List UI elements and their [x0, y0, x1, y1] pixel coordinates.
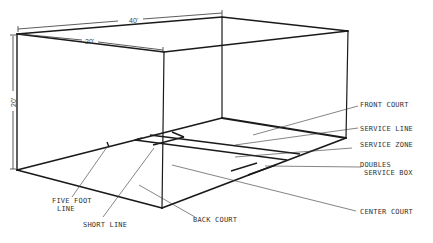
label-front-court: FRONT COURT	[360, 101, 409, 109]
floor-edge-front	[222, 118, 346, 138]
vertical-edge-near	[162, 52, 164, 208]
dim-20w-left	[20, 34, 82, 40]
dim-20w-right	[98, 42, 163, 50]
label-short-line: SHORT LINE	[83, 221, 127, 229]
top-edge-back-left	[17, 17, 222, 34]
vertical-edge-front-right	[346, 31, 348, 138]
top-edge-right-side	[164, 31, 348, 52]
leader-service-zone	[235, 148, 352, 157]
label-service-line: SERVICE LINE	[360, 125, 413, 133]
label-five-foot-line-1: FIVE FOOT	[52, 197, 92, 205]
label-doubles-service-box-1: DOUBLES	[360, 161, 391, 169]
label-five-foot-line-2: LINE	[57, 205, 75, 213]
leader-center-court	[172, 165, 356, 211]
floor-lines	[107, 132, 300, 175]
label-doubles-service-box-2: SERVICE BOX	[364, 169, 413, 177]
label-back-court: BACK COURT	[193, 216, 238, 224]
dim-length-label: 40'	[129, 17, 138, 24]
doubles-box-left-a	[135, 138, 142, 140]
leader-back-court	[139, 185, 195, 217]
leader-doubles-box	[265, 166, 361, 167]
top-edge-front	[222, 17, 348, 31]
dim-width-label: 20'	[85, 38, 94, 45]
doubles-box-right-a	[231, 163, 257, 171]
label-center-court: CENTER COURT	[360, 208, 414, 216]
leader-short-line	[103, 148, 154, 217]
dim-40-left	[18, 21, 118, 29]
dim-height-label: 20'	[10, 98, 17, 107]
doubles-box-left-c	[172, 132, 184, 137]
leader-lines	[72, 106, 361, 217]
floor-edge-left	[17, 118, 222, 170]
label-service-zone: SERVICE ZONE	[360, 141, 413, 149]
court-box	[17, 17, 348, 208]
court-diagram: 40' 20' 20' FRONT COURT SERVICE LINE SER…	[0, 0, 433, 243]
doubles-box-right-b	[248, 165, 276, 175]
